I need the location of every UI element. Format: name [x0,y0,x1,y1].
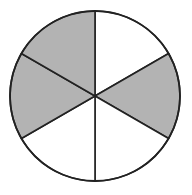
circle-divided-into-sixths [0,0,192,195]
fraction-circle-diagram [0,0,192,195]
